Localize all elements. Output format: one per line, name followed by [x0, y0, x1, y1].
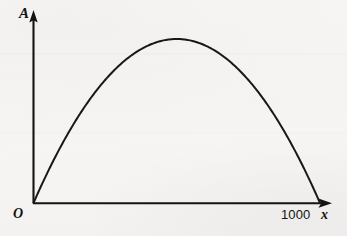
x-axis-tick-label-1000: 1000 — [281, 208, 310, 221]
origin-label: O — [13, 207, 23, 221]
figure-canvas: A O 1000 x — [0, 0, 347, 236]
plot-area — [0, 0, 347, 236]
parabola-curve — [34, 39, 321, 203]
x-axis-label: x — [321, 208, 328, 222]
y-axis — [29, 10, 37, 203]
y-axis-label: A — [19, 6, 29, 21]
